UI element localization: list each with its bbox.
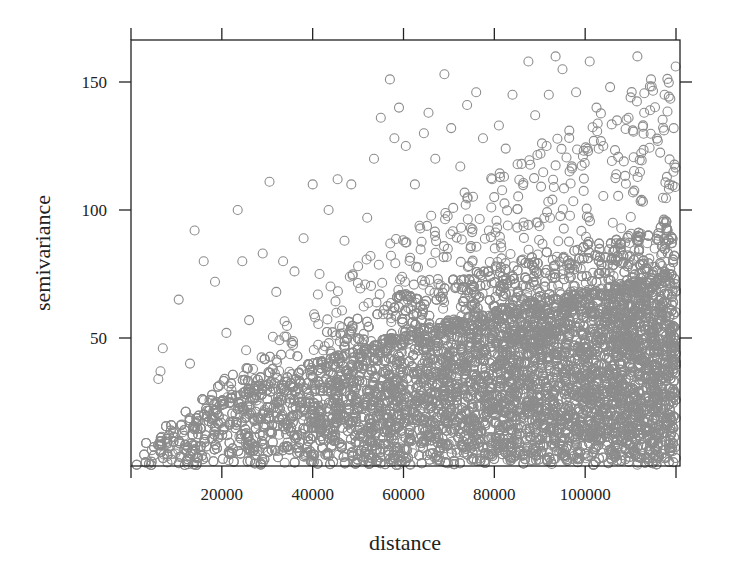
data-points	[132, 52, 680, 470]
semivariogram-scatter-chart: 2000040000600008000010000050100150 dista…	[0, 0, 731, 577]
y-axis-title: semivariance	[30, 195, 55, 311]
y-tick-label: 150	[82, 73, 108, 92]
y-tick-label: 100	[82, 201, 108, 220]
x-tick-label: 20000	[201, 485, 244, 504]
x-axis-title: distance	[369, 530, 441, 555]
x-tick-label: 100000	[560, 485, 611, 504]
x-tick-label: 80000	[473, 485, 516, 504]
x-tick-label: 40000	[291, 485, 334, 504]
x-tick-label: 60000	[382, 485, 425, 504]
y-tick-label: 50	[90, 329, 107, 348]
